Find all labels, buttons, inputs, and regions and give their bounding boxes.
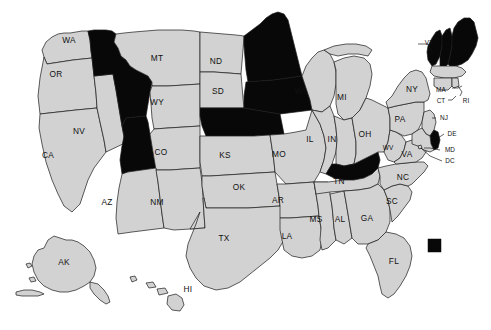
state-SD[interactable] [200,72,244,108]
state-CO[interactable] [150,126,200,170]
state-AZ[interactable] [116,168,164,234]
us-map-container: WA OR CA NV MT WY CO AZ NM ND SD KS OK T… [0,0,491,330]
state-CT[interactable] [434,78,452,90]
us-states-map: WA OR CA NV MT WY CO AZ NM ND SD KS OK T… [0,0,491,330]
state-ND[interactable] [200,32,244,74]
state-OK[interactable] [202,172,280,208]
state-NM[interactable] [156,168,205,230]
state-KS[interactable] [200,135,275,176]
state-WY[interactable] [150,84,200,129]
state-IA[interactable] [244,76,312,114]
state-MA[interactable] [430,66,466,78]
state-AR[interactable] [277,182,319,218]
state-OR[interactable] [38,57,97,114]
legend-swatch [428,239,441,252]
state-LA[interactable] [280,216,322,258]
